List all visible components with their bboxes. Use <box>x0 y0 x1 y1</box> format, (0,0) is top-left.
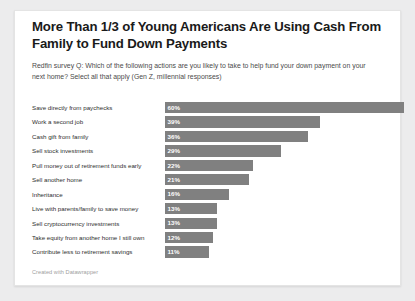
bar-category-label: Contribute less to retirement savings <box>32 247 160 257</box>
bar-track: 60% <box>165 102 404 113</box>
bar-track: 22% <box>165 160 404 171</box>
bar-value-label: 13% <box>168 219 180 227</box>
bar-category-label: Cash gift from family <box>32 132 160 142</box>
bar-fill: 22% <box>165 160 253 171</box>
bar-fill: 29% <box>165 145 281 156</box>
bar-fill: 60% <box>165 102 404 113</box>
bar-track: 21% <box>165 174 404 185</box>
bar-row: Live with parents/family to save money13… <box>32 203 404 217</box>
bar-track: 13% <box>165 203 404 214</box>
chart-header: More Than 1/3 of Young Americans Are Usi… <box>32 19 390 82</box>
bar-value-label: 12% <box>168 234 180 242</box>
bar-category-label: Sell another home <box>32 175 160 185</box>
bar-value-label: 29% <box>168 147 180 155</box>
bar-row: Sell another home21% <box>32 174 404 188</box>
bar-fill: 21% <box>165 174 249 185</box>
bar-value-label: 11% <box>168 248 180 256</box>
bar-fill: 16% <box>165 189 229 200</box>
bar-fill: 13% <box>165 218 217 229</box>
bar-chart-plot: Save directly from paychecks60%Work a se… <box>32 102 404 261</box>
bar-track: 13% <box>165 218 404 229</box>
bar-row: Inheritance16% <box>32 189 404 203</box>
bar-value-label: 39% <box>168 118 180 126</box>
bar-value-label: 36% <box>168 133 180 141</box>
chart-card: More Than 1/3 of Young Americans Are Usi… <box>14 10 401 286</box>
bar-row: Take equity from another home I still ow… <box>32 232 404 246</box>
bar-row: Sell cryptocurrency investments13% <box>32 218 404 232</box>
chart-footer-credit: Created with Datawrapper <box>32 269 98 275</box>
bar-category-label: Work a second job <box>32 117 160 127</box>
bar-track: 16% <box>165 189 404 200</box>
bar-row: Sell stock investments29% <box>32 145 404 159</box>
bar-category-label: Sell cryptocurrency investments <box>32 219 160 229</box>
bar-track: 11% <box>165 246 404 257</box>
bar-value-label: 22% <box>168 162 180 170</box>
chart-subtitle: Redfin survey Q: Which of the following … <box>32 61 367 82</box>
bar-fill: 12% <box>165 232 213 243</box>
bar-category-label: Live with parents/family to save money <box>32 204 160 214</box>
bar-value-label: 21% <box>168 176 180 184</box>
bar-track: 36% <box>165 131 404 142</box>
bar-track: 12% <box>165 232 404 243</box>
bar-value-label: 13% <box>168 205 180 213</box>
bar-row: Pull money out of retirement funds early… <box>32 160 404 174</box>
bar-fill: 13% <box>165 203 217 214</box>
chart-title: More Than 1/3 of Young Americans Are Usi… <box>32 19 384 52</box>
bar-row: Cash gift from family36% <box>32 131 404 145</box>
bar-track: 29% <box>165 145 404 156</box>
bar-row: Work a second job39% <box>32 116 404 130</box>
bar-category-label: Save directly from paychecks <box>32 103 160 113</box>
bar-fill: 11% <box>165 246 209 257</box>
bar-fill: 36% <box>165 131 308 142</box>
bar-row: Contribute less to retirement savings11% <box>32 246 404 260</box>
bar-value-label: 60% <box>168 104 180 112</box>
bar-fill: 39% <box>165 116 320 127</box>
bar-value-label: 16% <box>168 190 180 198</box>
bar-category-label: Pull money out of retirement funds early <box>32 161 160 171</box>
bar-row: Save directly from paychecks60% <box>32 102 404 116</box>
bar-track: 39% <box>165 116 404 127</box>
bar-category-label: Inheritance <box>32 190 160 200</box>
bar-category-label: Take equity from another home I still ow… <box>32 233 160 243</box>
bar-category-label: Sell stock investments <box>32 146 160 156</box>
